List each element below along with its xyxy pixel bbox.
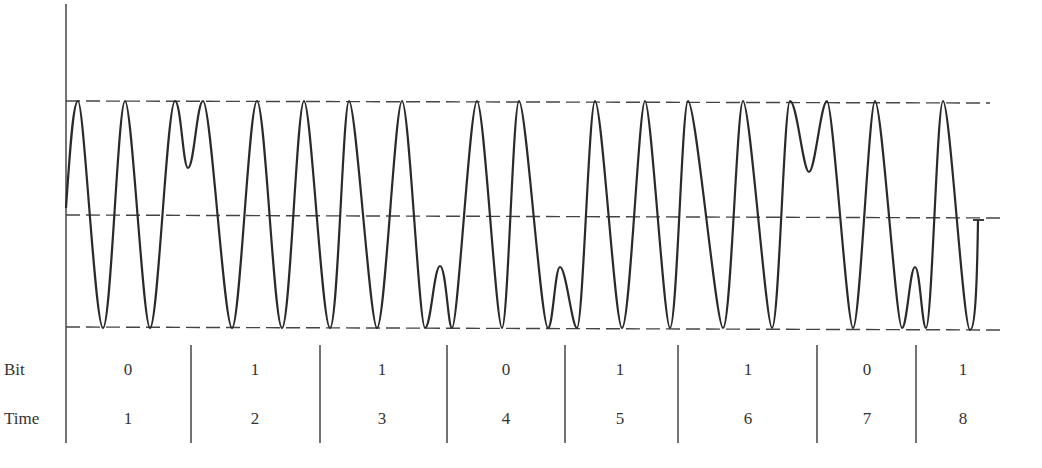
time-value-4: 4 xyxy=(502,409,511,429)
time-value-7: 7 xyxy=(863,409,872,429)
bit-value-6: 1 xyxy=(744,360,753,380)
bit-value-4: 0 xyxy=(502,360,511,380)
time-value-5: 5 xyxy=(616,409,625,429)
bit-value-1: 0 xyxy=(124,360,133,380)
time-value-8: 8 xyxy=(959,409,968,429)
bit-value-2: 1 xyxy=(251,360,260,380)
time-value-3: 3 xyxy=(378,409,387,429)
bit-row-label: Bit xyxy=(4,360,25,380)
time-value-6: 6 xyxy=(744,409,753,429)
bit-value-5: 1 xyxy=(616,360,625,380)
bit-value-8: 1 xyxy=(959,360,968,380)
time-row-label: Time xyxy=(4,409,39,429)
time-value-1: 1 xyxy=(124,409,133,429)
slot-separators xyxy=(191,345,916,443)
modulated-waveform xyxy=(66,101,978,330)
bit-value-7: 0 xyxy=(863,360,872,380)
time-value-2: 2 xyxy=(251,409,260,429)
waveform-diagram xyxy=(0,0,1042,468)
min-reference-line xyxy=(66,327,1003,330)
bit-value-3: 1 xyxy=(378,360,387,380)
